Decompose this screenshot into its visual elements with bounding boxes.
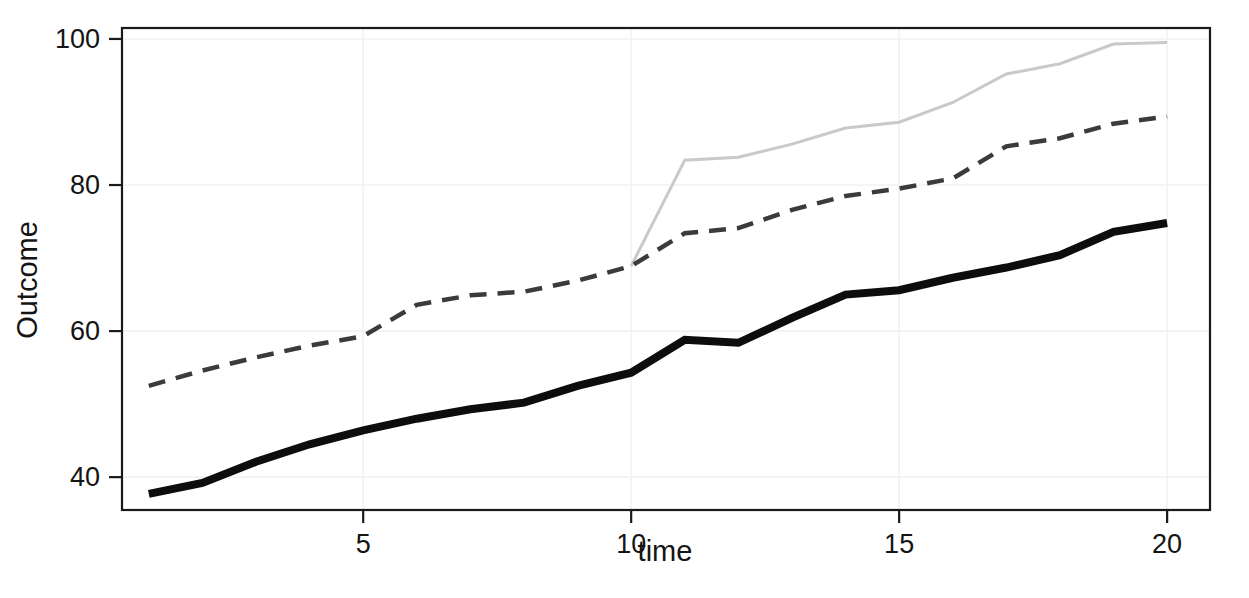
x-axis-title: time	[638, 535, 693, 567]
y-tick-labels-group: 406080100	[55, 24, 100, 492]
series-line-dashed-dark-gray	[149, 116, 1167, 385]
gridlines-group	[122, 28, 1210, 510]
panel-border	[122, 28, 1210, 510]
chart-figure: 406080100 5101520 time Outcome	[0, 0, 1249, 598]
y-tick-label-2: 80	[70, 170, 100, 200]
x-tick-label-3: 20	[1152, 529, 1182, 559]
tickmarks-group	[109, 39, 1167, 523]
y-tick-label-1: 60	[70, 316, 100, 346]
x-tick-label-2: 15	[884, 529, 914, 559]
x-tick-label-0: 5	[356, 529, 371, 559]
y-tick-label-0: 40	[70, 462, 100, 492]
y-tick-label-3: 100	[55, 24, 100, 54]
line-chart-svg: 406080100 5101520 time Outcome	[0, 0, 1249, 598]
y-axis-title: Outcome	[11, 221, 43, 339]
data-series-group	[149, 43, 1167, 494]
x-tick-labels-group: 5101520	[356, 529, 1182, 559]
series-line-solid-thick-black	[149, 223, 1167, 494]
